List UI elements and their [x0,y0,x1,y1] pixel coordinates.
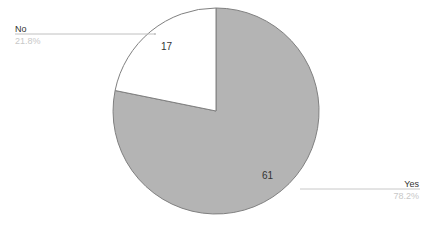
pie-chart [0,0,434,231]
value-label-yes: 61 [262,170,273,181]
category-label-yes: Yes [404,179,419,189]
percent-label-no: 21.8% [15,36,41,46]
leader-dot-no [154,33,156,35]
value-label-no: 17 [161,41,172,52]
category-label-no: No [15,24,27,34]
percent-label-yes: 78.2% [393,191,419,201]
